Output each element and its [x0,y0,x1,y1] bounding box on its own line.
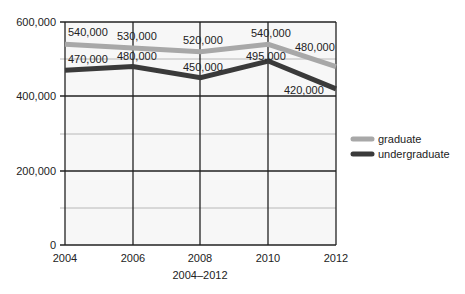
legend-item-undergraduate: undergraduate [353,148,450,160]
data-label-undergraduate: 470,000 [68,53,108,65]
data-label-graduate: 530,000 [117,30,157,42]
x-tick-label: 2006 [121,252,145,264]
x-axis: 2004 2006 2008 2010 2012 2004–2012 [53,252,348,281]
legend-label: graduate [378,133,421,145]
x-axis-title: 2004–2012 [172,269,227,281]
x-tick-label: 2008 [188,252,212,264]
y-tick-label: 200,000 [16,165,56,177]
x-tick-label: 2004 [53,252,77,264]
data-label-graduate: 540,000 [251,27,291,39]
y-tick-label: 0 [50,239,56,251]
x-tick-label: 2012 [324,252,348,264]
x-tick-label: 2010 [256,252,280,264]
y-axis: 600,000 400,000 200,000 0 [16,16,56,251]
y-tick-label: 400,000 [16,90,56,102]
legend-item-graduate: graduate [353,133,421,145]
data-label-undergraduate: 420,000 [284,84,324,96]
data-label-graduate: 480,000 [295,41,335,53]
legend-label: undergraduate [378,148,450,160]
data-label-graduate: 520,000 [183,34,223,46]
line-chart: 600,000 400,000 200,000 0 2004 2006 2008… [0,0,465,294]
data-label-undergraduate: 495,000 [246,50,286,62]
data-label-undergraduate: 480,000 [117,50,157,62]
data-label-graduate: 540,000 [68,26,108,38]
data-label-undergraduate: 450,000 [183,61,223,73]
y-tick-label: 600,000 [16,16,56,28]
legend: graduate undergraduate [353,133,450,160]
